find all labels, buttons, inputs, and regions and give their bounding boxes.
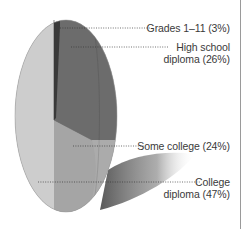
label-some-college: Some college (24%) (137, 140, 230, 152)
label-grades-1-11: Grades 1–11 (3%) (147, 22, 230, 34)
pie-chart: Grades 1–11 (3%) High school diploma (26… (0, 0, 245, 229)
label-high-school: High school diploma (26%) (164, 41, 230, 65)
slice-high-school (54, 0, 130, 140)
label-text: College (164, 176, 230, 188)
label-college-diploma: College diploma (47%) (164, 176, 230, 200)
slice-college-diploma (0, 0, 54, 229)
page-divider-line (240, 0, 241, 229)
label-text: Grades 1–11 (3%) (147, 22, 230, 34)
label-text: Some college (24%) (137, 140, 230, 152)
label-text: diploma (26%) (164, 53, 230, 65)
label-text: High school (164, 41, 230, 53)
label-text: diploma (47%) (164, 188, 230, 200)
